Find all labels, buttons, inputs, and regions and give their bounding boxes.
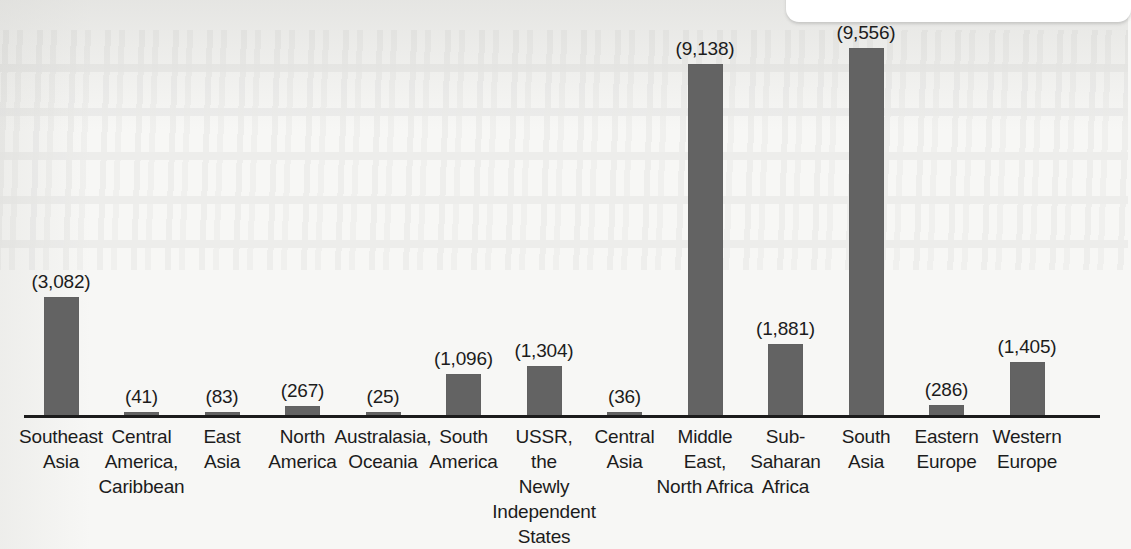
category-label: WesternEurope [952, 424, 1102, 474]
bar-value-label: (36) [555, 386, 695, 408]
category-label-line: Western [952, 424, 1102, 449]
bar [688, 64, 723, 416]
bar [849, 48, 884, 416]
bar [1010, 362, 1045, 416]
bar [446, 374, 481, 416]
category-label-line: Caribbean [67, 474, 217, 499]
bar-value-label: (25) [313, 386, 453, 408]
bar [768, 344, 803, 416]
category-label-line: Africa [711, 474, 861, 499]
category-label-line: Europe [952, 449, 1102, 474]
overlay-panel [786, 0, 1131, 22]
category-label-line: States [469, 524, 619, 549]
bar-value-label: (1,405) [957, 336, 1097, 358]
bar-value-label: (9,138) [635, 38, 775, 60]
bar-value-label: (286) [877, 379, 1017, 401]
category-label-line: Newly [469, 474, 619, 499]
bar-value-label: (3,082) [0, 271, 131, 293]
category-label-line: Independent [469, 499, 619, 524]
bar-value-label: (1,881) [716, 318, 856, 340]
bar-value-label: (9,556) [796, 22, 936, 44]
bar-value-label: (1,304) [474, 340, 614, 362]
x-axis-line [24, 415, 1100, 418]
